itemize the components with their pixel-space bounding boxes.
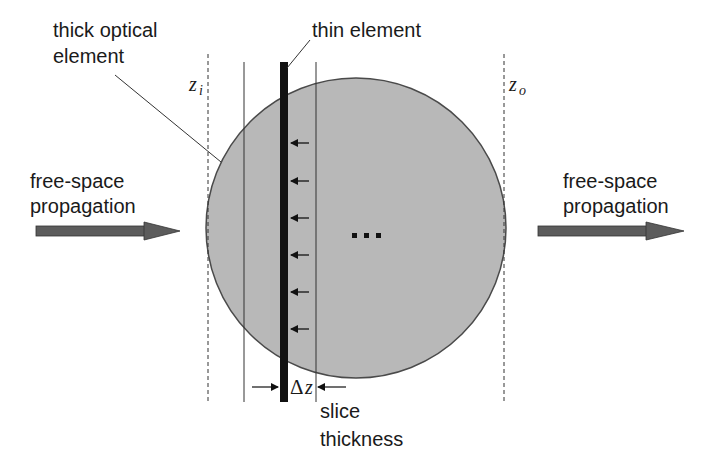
delta-symbol: Δ xyxy=(290,375,304,399)
slice-thickness-label-line1: slice xyxy=(320,400,360,422)
left-propagation-label-line2: propagation xyxy=(30,195,136,217)
diagram-canvas: thick optical element thin element free-… xyxy=(0,0,710,474)
thick-optical-element-circle xyxy=(206,78,506,378)
left-propagation-label-line1: free-space xyxy=(30,170,125,192)
delta-z-label: z xyxy=(304,376,313,398)
thick-element-label-line1: thick optical xyxy=(53,19,158,41)
thick-element-leader-line xyxy=(115,75,221,162)
thick-element-label-line2: element xyxy=(53,45,125,67)
left-propagation-arrow xyxy=(36,222,180,240)
slice-thickness-label-line2: thickness xyxy=(320,428,403,450)
ellipsis-icon xyxy=(352,233,381,238)
z-output-subscript: o xyxy=(519,83,526,98)
thin-element-label: thin element xyxy=(312,19,421,41)
thin-element-bar xyxy=(280,62,288,402)
z-output-label: z xyxy=(508,73,517,95)
right-propagation-label-line2: propagation xyxy=(563,195,669,217)
right-propagation-label-line1: free-space xyxy=(563,170,658,192)
z-input-subscript: i xyxy=(199,83,203,98)
thin-element-leader-line xyxy=(287,40,310,68)
right-propagation-arrow xyxy=(538,222,684,240)
z-input-label: z xyxy=(188,73,197,95)
